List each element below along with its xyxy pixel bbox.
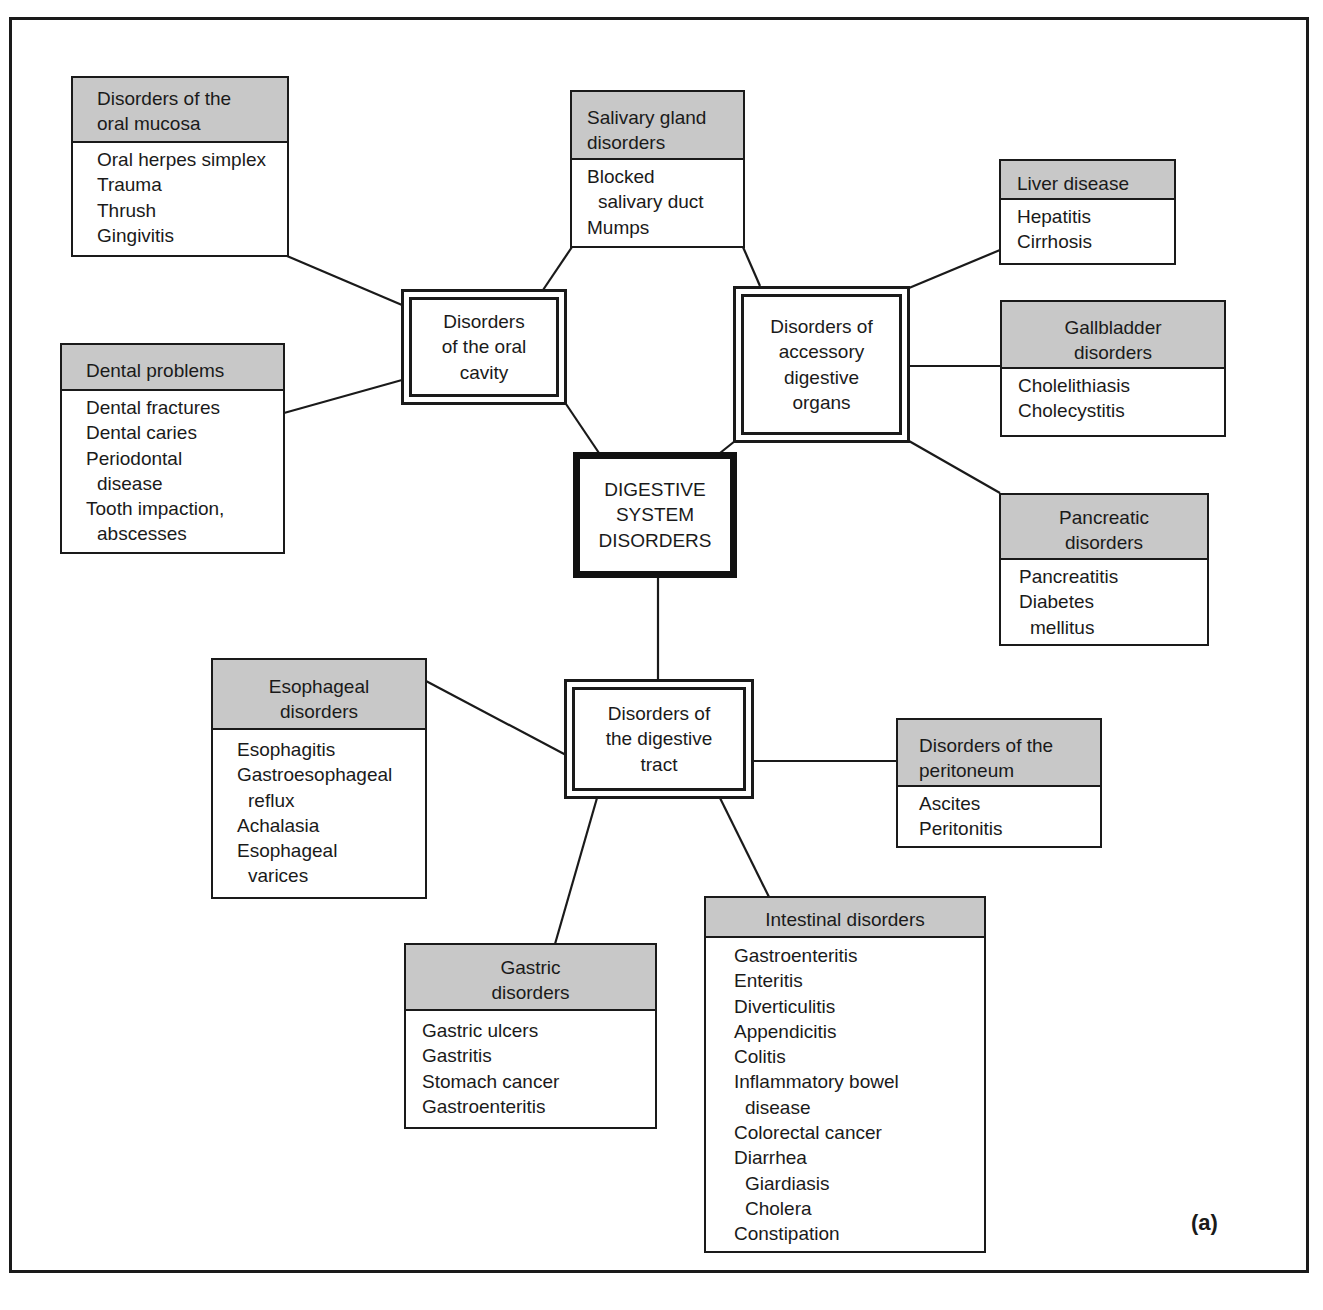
list-item: Gingivitis — [97, 223, 281, 248]
connector-salivary — [543, 247, 572, 290]
category-title: Dental problems — [62, 345, 283, 391]
center-node-digestive-system-disorders: DIGESTIVE SYSTEM DISORDERS — [573, 452, 737, 578]
category-dental-problems: Dental problems Dental fractures Dental … — [60, 343, 285, 554]
list-item: Colitis — [734, 1044, 978, 1069]
category-oral-mucosa: Disorders of the oral mucosa Oral herpes… — [71, 76, 289, 257]
list-item: Dental fractures — [86, 395, 277, 420]
category-title: Salivary gland disorders — [572, 92, 743, 160]
list-item: Gastric ulcers — [422, 1018, 649, 1043]
category-title: Liver disease — [1001, 161, 1174, 200]
hub-digestive-tract: Disorders of the digestive tract — [564, 679, 754, 799]
list-item: Oral herpes simplex — [97, 147, 281, 172]
list-item: Achalasia — [237, 813, 419, 838]
connector-esophageal — [426, 681, 566, 755]
category-peritoneum: Disorders of the peritoneum Ascites Peri… — [896, 718, 1102, 848]
connector-liver — [909, 250, 1000, 288]
category-title: Gallbladder disorders — [1002, 302, 1224, 369]
list-item: Hepatitis — [1017, 204, 1168, 229]
list-item: Tooth impaction, — [86, 496, 277, 521]
hub-oral-cavity: Disorders of the oral cavity — [401, 289, 567, 405]
connector-pancreatic — [909, 441, 1000, 493]
category-title: Disorders of the peritoneum — [898, 720, 1100, 787]
list-item: Diarrhea — [734, 1145, 978, 1170]
list-item: disease — [734, 1095, 978, 1120]
list-item: Pancreatitis — [1019, 564, 1201, 589]
category-intestinal: Intestinal disorders Gastroenteritis Ent… — [704, 896, 986, 1253]
list-item: varices — [237, 863, 419, 888]
category-esophageal: Esophageal disorders Esophagitis Gastroe… — [211, 658, 427, 899]
list-item: Giardiasis — [734, 1171, 978, 1196]
list-item: Gastroenteritis — [734, 943, 978, 968]
list-item: Stomach cancer — [422, 1069, 649, 1094]
center-node-label: DIGESTIVE SYSTEM DISORDERS — [599, 477, 712, 554]
category-title: Intestinal disorders — [706, 898, 984, 938]
connector-oral-mucosa — [287, 256, 402, 305]
list-item: Thrush — [97, 198, 281, 223]
category-title: Gastric disorders — [406, 945, 655, 1011]
list-item: Mumps — [587, 215, 737, 240]
list-item: Peritonitis — [919, 816, 1094, 841]
list-item: Blocked — [587, 164, 737, 189]
list-item: Trauma — [97, 172, 281, 197]
list-item: Gastroenteritis — [422, 1094, 649, 1119]
hub-oral-cavity-label: Disorders of the oral cavity — [442, 309, 527, 386]
list-item: disease — [86, 471, 277, 496]
list-item: Enteritis — [734, 968, 978, 993]
category-pancreatic: Pancreatic disorders Pancreatitis Diabet… — [999, 493, 1209, 646]
list-item: Ascites — [919, 791, 1094, 816]
category-title: Pancreatic disorders — [1001, 495, 1207, 560]
list-item: Periodontal — [86, 446, 277, 471]
list-item: Inflammatory bowel — [734, 1069, 978, 1094]
list-item: salivary duct — [587, 189, 737, 214]
category-gallbladder: Gallbladder disorders Cholelithiasis Cho… — [1000, 300, 1226, 437]
category-title: Disorders of the oral mucosa — [73, 78, 287, 143]
connector-gastric — [555, 798, 597, 944]
category-gastric: Gastric disorders Gastric ulcers Gastrit… — [404, 943, 657, 1129]
list-item: Diverticulitis — [734, 994, 978, 1019]
list-item: Constipation — [734, 1221, 978, 1246]
category-salivary-gland: Salivary gland disorders Blocked salivar… — [570, 90, 745, 248]
list-item: Cholecystitis — [1018, 398, 1218, 423]
list-item: Esophagitis — [237, 737, 419, 762]
connector-intestinal — [720, 798, 769, 897]
list-item: Diabetes — [1019, 589, 1201, 614]
list-item: Gastroesophageal — [237, 762, 419, 787]
list-item: Cirrhosis — [1017, 229, 1168, 254]
hub-digestive-tract-label: Disorders of the digestive tract — [606, 701, 713, 778]
list-item: Esophageal — [237, 838, 419, 863]
category-liver-disease: Liver disease Hepatitis Cirrhosis — [999, 159, 1176, 265]
connector-salivary-accessory — [743, 247, 760, 286]
list-item: Gastritis — [422, 1043, 649, 1068]
list-item: Cholera — [734, 1196, 978, 1221]
list-item: Appendicitis — [734, 1019, 978, 1044]
list-item: abscesses — [86, 521, 277, 546]
list-item: Cholelithiasis — [1018, 373, 1218, 398]
list-item: Dental caries — [86, 420, 277, 445]
hub-accessory-label: Disorders of accessory digestive organs — [770, 314, 872, 416]
category-title: Esophageal disorders — [213, 660, 425, 730]
figure-label: (a) — [1191, 1210, 1218, 1236]
hub-accessory-organs: Disorders of accessory digestive organs — [733, 286, 910, 443]
list-item: mellitus — [1019, 615, 1201, 640]
connector-oral-center — [566, 404, 599, 453]
connector-dental — [284, 380, 402, 413]
list-item: Colorectal cancer — [734, 1120, 978, 1145]
list-item: reflux — [237, 788, 419, 813]
